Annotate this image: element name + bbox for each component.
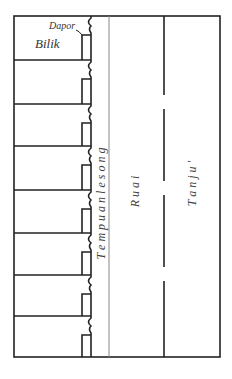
- bilik-wall: [89, 16, 92, 357]
- tanju-label: T a n j u ': [185, 134, 200, 234]
- ruai-label: R u a i: [128, 152, 143, 232]
- bilik-label: Bilik: [35, 36, 60, 52]
- tempuan-lesong-label: T e m p u a n l e s o n g: [94, 85, 109, 323]
- dapor-label: Dapor: [49, 20, 75, 31]
